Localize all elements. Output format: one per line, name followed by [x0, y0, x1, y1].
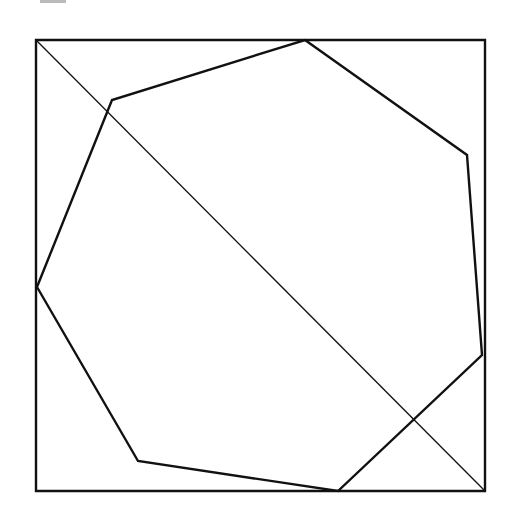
diagonal-line	[36, 40, 485, 491]
geometry-figure	[0, 0, 515, 520]
